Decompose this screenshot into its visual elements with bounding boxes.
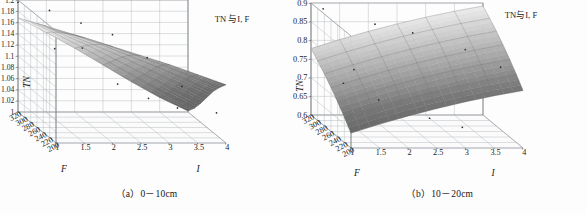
z-tick-label: 1.14 — [1, 29, 14, 38]
data-point — [343, 82, 345, 84]
plot-title: TN与I, F — [505, 10, 538, 20]
data-point — [112, 34, 114, 36]
i-tick-label: 1 — [55, 143, 59, 152]
i-tick-label: 2.5 — [137, 143, 147, 152]
data-point — [54, 48, 56, 50]
i-tick-label: 3.5 — [490, 148, 500, 157]
i-tick-label: 1.5 — [376, 148, 386, 157]
data-point — [148, 97, 150, 99]
data-point — [429, 117, 431, 119]
z-tick-label: 1.12 — [1, 40, 14, 49]
data-point — [146, 57, 148, 59]
panel-a-svg: 11.021.041.061.081.11.121.141.161.181.2T… — [0, 0, 293, 215]
z-tick-label: 1.18 — [1, 7, 14, 16]
i-tick-label: 4 — [225, 143, 229, 152]
z-tick-label: 0.85 — [293, 17, 307, 26]
z-axis: 11.021.041.061.081.11.121.141.161.181.2 — [1, 0, 18, 117]
data-point — [81, 47, 83, 49]
data-point — [49, 10, 51, 12]
i-axis-label: I — [195, 164, 200, 174]
data-point — [177, 107, 179, 109]
data-point — [181, 86, 183, 88]
i-tick-label: 1 — [350, 148, 354, 157]
z-tick-label: 1.04 — [1, 85, 14, 94]
z-tick-label: 1.16 — [1, 18, 14, 27]
z-tick-label: 0.75 — [293, 55, 307, 64]
data-point — [17, 1, 19, 3]
z-tick-label: 1.06 — [1, 74, 14, 83]
z-tick-label: 1.08 — [1, 63, 14, 72]
i-axis: 11.522.533.54 — [55, 143, 229, 152]
f-axis-label: F — [353, 168, 360, 178]
i-tick-label: 4 — [522, 148, 526, 157]
z-tick-label: 1.2 — [5, 0, 15, 5]
z-tick-label: 0.9 — [297, 0, 307, 8]
z-tick-label: 1.02 — [1, 96, 14, 105]
data-point — [216, 112, 218, 114]
data-point — [353, 69, 355, 71]
data-point — [374, 23, 376, 25]
panel-a-surface-plot: 11.021.041.061.081.11.121.141.161.181.2T… — [0, 0, 293, 215]
data-point — [500, 66, 502, 68]
data-point — [412, 32, 414, 34]
data-point — [378, 99, 380, 101]
z-axis: 0.60.650.70.750.80.850.9 — [293, 0, 311, 120]
data-point — [322, 8, 324, 10]
panel-b-caption: （b）10－20cm — [293, 186, 586, 200]
panel-a-caption: （a）0－10cm — [0, 186, 293, 200]
i-axis-label: I — [490, 168, 495, 178]
i-tick-label: 1.5 — [80, 143, 90, 152]
data-point — [117, 83, 119, 85]
z-axis-label: TN — [22, 76, 32, 88]
i-tick-label: 3.5 — [194, 143, 204, 152]
data-point — [461, 126, 463, 128]
panel-b-surface-plot: 0.60.650.70.750.80.850.9TN32030028026024… — [293, 0, 586, 215]
i-tick-label: 3 — [168, 143, 172, 152]
figure-container: 11.021.041.061.081.11.121.141.161.181.2T… — [0, 0, 587, 215]
panel-b-svg: 0.60.650.70.750.80.850.9TN32030028026024… — [293, 0, 586, 215]
f-axis-label: F — [60, 164, 67, 174]
i-tick-label: 3 — [465, 148, 469, 157]
z-tick-label: 0.65 — [293, 92, 307, 101]
i-tick-label: 2 — [112, 143, 116, 152]
i-axis: 11.522.533.54 — [350, 148, 526, 157]
i-tick-label: 2 — [407, 148, 411, 157]
z-tick-label: 1.1 — [5, 52, 15, 61]
plot-title: TN 与I, F — [215, 14, 250, 24]
i-tick-label: 2.5 — [433, 148, 443, 157]
z-tick-label: 0.8 — [297, 36, 307, 45]
data-point — [80, 22, 82, 24]
data-point — [464, 49, 466, 51]
z-axis-label: TN — [295, 80, 305, 92]
